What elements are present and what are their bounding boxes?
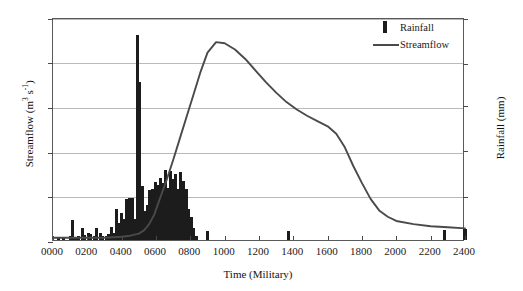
x-tick-label: 2200 [419,246,441,257]
x-tick-mark [465,236,466,240]
chart-legend: Rainfall Streamflow [370,20,465,54]
y-tick-mark-left [48,242,53,243]
streamflow-swatch-icon [373,44,399,46]
rainfall-swatch-icon [383,21,387,33]
x-tick-mark [362,236,363,240]
x-tick-label: 1800 [350,246,372,257]
x-tick-label: 1000 [213,246,235,257]
x-tick-mark [259,236,260,240]
x-tick-label: 0400 [110,246,132,257]
x-tick-label: 1200 [247,246,269,257]
x-tick-label: 1600 [316,246,338,257]
x-tick-mark [431,236,432,240]
x-tick-label: 0200 [75,246,97,257]
x-tick-label: 2000 [384,246,406,257]
x-axis-title: Time (Military) [52,268,464,280]
x-tick-mark [122,236,123,240]
x-tick-mark [396,236,397,240]
legend-label-rainfall: Rainfall [400,23,434,34]
x-tick-mark [328,236,329,240]
x-tick-mark [53,236,54,240]
x-tick-label: 0600 [144,246,166,257]
legend-item-streamflow: Streamflow [370,37,465,54]
x-tick-label: 2400 [453,246,475,257]
y-axis-right-title: Rainfall (mm) [494,48,506,208]
x-tick-mark [87,236,88,240]
x-tick-mark [225,236,226,240]
legend-item-rainfall: Rainfall [370,20,465,37]
legend-label-streamflow: Streamflow [400,40,449,51]
x-tick-mark [293,236,294,240]
rainfall-streamflow-chart: Streamflow (m3 s-1) Rainfall (mm) Time (… [0,0,523,291]
y-axis-left-title: Streamflow (m3 s-1) [21,44,35,204]
x-tick-mark [156,236,157,240]
x-tick-label: 0000 [41,246,63,257]
x-tick-label: 1400 [281,246,303,257]
x-tick-label: 0800 [178,246,200,257]
x-tick-mark [190,236,191,240]
